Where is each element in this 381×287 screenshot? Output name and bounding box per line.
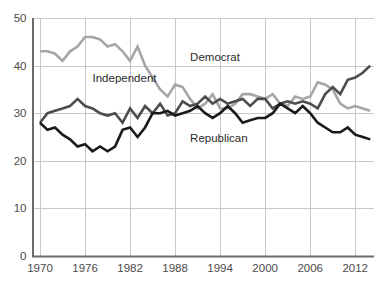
y-tick-label-0: 0	[20, 250, 26, 262]
x-tick-label-2000: 2000	[252, 262, 278, 274]
x-tick-label-1994: 1994	[207, 262, 233, 274]
y-tick-label-50: 50	[14, 12, 27, 24]
series-annotation-republican: Republican	[190, 132, 248, 144]
x-tick-label-2006: 2006	[297, 262, 323, 274]
x-tick-label-1982: 1982	[117, 262, 143, 274]
chart-container: 01020304050 1970197619821988199420002006…	[0, 0, 381, 287]
party-affiliation-line-chart: 01020304050 1970197619821988199420002006…	[0, 0, 381, 287]
y-tick-label-10: 10	[14, 202, 27, 214]
y-tick-label-30: 30	[14, 107, 27, 119]
x-tick-label-2012: 2012	[342, 262, 368, 274]
x-tick-label-1976: 1976	[72, 262, 98, 274]
x-tick-label-1988: 1988	[162, 262, 188, 274]
series-annotation-independent: Independent	[93, 72, 158, 84]
series-annotation-democrat: Democrat	[190, 51, 241, 63]
y-tick-label-20: 20	[14, 155, 27, 167]
y-tick-label-40: 40	[14, 60, 27, 72]
x-tick-label-1970: 1970	[27, 262, 53, 274]
